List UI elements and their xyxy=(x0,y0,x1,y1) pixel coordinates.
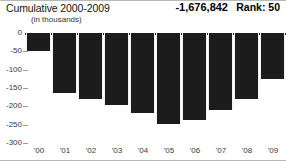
bar xyxy=(182,33,207,120)
bar-series xyxy=(26,33,286,143)
x-axis-tick-label: '07 xyxy=(208,146,234,155)
x-axis-tick-label: '03 xyxy=(104,146,130,155)
bar xyxy=(52,33,77,93)
y-axis-tick-label: -250 xyxy=(0,121,22,129)
y-axis-tick-label: 0 xyxy=(0,29,22,37)
y-axis-tick-label: -150 xyxy=(0,84,22,92)
bar xyxy=(104,33,129,105)
bar xyxy=(260,33,285,79)
y-axis-tick-label: -300 xyxy=(0,139,22,147)
y-axis-tick-label: -200 xyxy=(0,102,22,110)
y-axis-tick-label: -50 xyxy=(0,47,22,55)
bar xyxy=(234,33,259,99)
bar xyxy=(78,33,103,99)
x-axis-tick-label: '02 xyxy=(78,146,104,155)
bar xyxy=(26,33,51,51)
x-axis-tick-label: '04 xyxy=(130,146,156,155)
bar-chart: 0-50-100-150-200-250-300 '00'01'02'03'04… xyxy=(0,0,286,161)
x-axis-tick-label: '00 xyxy=(26,146,52,155)
x-axis-tick-label: '06 xyxy=(182,146,208,155)
x-axis-tick-label: '01 xyxy=(52,146,78,155)
bar xyxy=(130,33,155,113)
bar xyxy=(208,33,233,110)
x-axis-tick-label: '05 xyxy=(156,146,182,155)
y-axis-tick-label: -100 xyxy=(0,66,22,74)
y-axis-tick xyxy=(23,143,28,144)
x-axis-tick-label: '08 xyxy=(234,146,260,155)
x-axis-tick-label: '09 xyxy=(260,146,286,155)
bar xyxy=(156,33,181,124)
